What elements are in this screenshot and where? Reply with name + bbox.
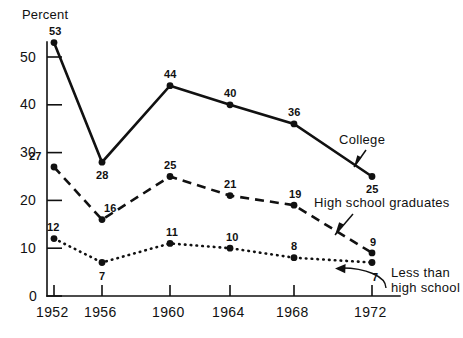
series-college-line [54,43,372,177]
y-tick-label-20: 20 [20,193,36,207]
value-label-college-1964: 40 [224,88,237,99]
y-tick-label-0: 0 [29,289,37,303]
value-label-highschool-1956: 16 [104,203,117,214]
point-lessthan-1964 [227,245,234,252]
y-axis-title: Percent [22,8,68,21]
point-college-1952 [51,39,58,46]
chart-canvas: Percent 0 10 20 30 40 50 1952 1956 1960 … [0,0,463,338]
series-college [51,39,376,180]
series-lessthan [51,235,376,266]
value-label-college-1952: 53 [49,26,62,37]
value-label-lessthan-1968: 8 [291,241,297,252]
point-college-1964 [227,101,234,108]
value-label-lessthan-1956: 7 [99,271,105,282]
value-label-lessthan-1960: 11 [166,227,178,238]
point-college-1972 [369,173,376,180]
series-lessthan-line [54,239,372,263]
point-highschool-1968 [291,202,298,209]
x-axis-ticks [54,285,372,296]
x-tick-label-1964: 1964 [212,305,245,319]
lessthan-leader-curve [342,268,386,288]
point-highschool-1972 [369,250,376,257]
point-lessthan-1956 [99,259,106,266]
value-label-college-1972: 25 [366,184,379,195]
point-lessthan-1968 [291,254,298,261]
y-tick-label-10: 10 [20,241,36,255]
value-label-highschool-1960: 25 [164,160,177,171]
x-tick-label-1952: 1952 [36,305,69,319]
y-tick-label-40: 40 [20,97,36,111]
point-lessthan-1952 [51,235,58,242]
annotation-arrows [335,150,386,288]
x-tick-label-1960: 1960 [152,305,185,319]
series-annotation-lessthan-line2: high school [391,281,460,294]
point-highschool-1964 [227,192,234,199]
value-label-highschool-1964: 21 [224,179,237,190]
value-label-college-1956: 28 [96,170,109,181]
highschool-leader-line [335,214,353,235]
point-college-1968 [291,121,298,128]
x-tick-label-1972: 1972 [354,305,387,319]
point-lessthan-1972 [369,259,376,266]
point-college-1960 [167,82,174,89]
value-label-college-1960: 44 [164,69,177,80]
series-annotation-college: College [339,133,385,146]
college-arrowhead [354,155,362,167]
value-label-highschool-1952: 27 [29,151,42,162]
value-label-highschool-1968: 19 [289,189,302,200]
point-lessthan-1960 [167,240,174,247]
series-annotation-highschool: High school graduates [314,196,450,209]
x-tick-label-1956: 1956 [84,305,117,319]
y-axis-ticks [47,57,62,296]
series-annotation-lessthan-line1: Less than [391,266,450,279]
point-highschool-1960 [167,173,174,180]
value-label-college-1968: 36 [288,107,301,118]
point-highschool-1952 [51,164,58,171]
point-highschool-1956 [99,216,106,223]
lessthan-arrowhead [335,264,346,273]
x-tick-label-1968: 1968 [276,305,309,319]
value-label-highschool-1972: 9 [370,237,376,248]
value-label-lessthan-1964: 10 [226,232,239,243]
value-label-lessthan-1972: 7 [372,272,378,283]
value-label-lessthan-1952: 12 [47,222,60,233]
y-tick-label-50: 50 [20,50,36,64]
point-college-1956 [99,159,106,166]
